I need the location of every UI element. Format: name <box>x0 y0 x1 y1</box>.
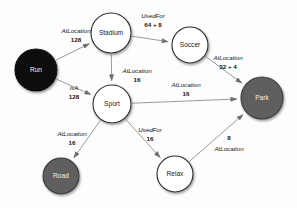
graph-canvas-svg: RunStadiumSoccerSportParkRoadRelax AtLoc… <box>0 0 297 208</box>
edge-weight-label: 16 <box>69 139 76 146</box>
node-label: Sport <box>104 100 120 108</box>
graph-node-run[interactable]: Run <box>15 49 57 91</box>
edge-weight-label: 16 <box>183 90 190 97</box>
edge-weight-label: 16 <box>147 135 154 142</box>
edge-relation-label: AtLocation <box>56 130 87 137</box>
edge-relation-label: AtLocation <box>212 54 243 61</box>
nodes-layer: RunStadiumSoccerSportParkRoadRelax <box>15 13 283 194</box>
knowledge-graph-diagram: RunStadiumSoccerSportParkRoadRelax AtLoc… <box>0 0 297 208</box>
edge-weight-label: 64 + 8 <box>144 21 162 28</box>
edge-weight-label: 32 + 4 <box>219 63 237 70</box>
edge-relation-label: AtLocation <box>121 67 152 74</box>
edge-weight-label: 16 <box>134 76 141 83</box>
graph-node-road[interactable]: Road <box>43 158 79 194</box>
node-label: Relax <box>167 170 185 177</box>
graph-node-park[interactable]: Park <box>241 77 283 119</box>
graph-edge <box>56 44 90 61</box>
graph-node-soccer[interactable]: Soccer <box>172 27 208 63</box>
graph-node-relax[interactable]: Relax <box>157 156 193 192</box>
edge-relation-label: AtLocation <box>213 145 244 152</box>
edge-relation-label: isA <box>70 84 79 91</box>
node-label: Park <box>255 94 269 101</box>
graph-node-stadium[interactable]: Stadium <box>91 13 131 53</box>
edge-relation-label: AtLocation <box>170 81 201 88</box>
graph-node-sport[interactable]: Sport <box>93 85 131 123</box>
node-label: Stadium <box>99 29 124 36</box>
edge-relation-label: UsedFor <box>138 126 163 133</box>
edge-weight-label: 128 <box>71 36 82 43</box>
edge-weight-label: 128 <box>69 93 80 100</box>
node-label: Soccer <box>180 41 201 48</box>
graph-edge <box>132 99 237 103</box>
node-label: Run <box>30 66 42 73</box>
node-label: Road <box>53 172 69 179</box>
edge-weight-label: 8 <box>227 134 231 141</box>
edge-labels-layer: AtLocation128UsedFor64 + 8AtLocation32 +… <box>56 12 244 152</box>
graph-edge <box>132 36 168 42</box>
edge-relation-label: UsedFor <box>141 12 166 19</box>
graph-edge <box>74 120 101 158</box>
edge-relation-label: AtLocation <box>60 27 91 34</box>
graph-edge <box>189 115 243 162</box>
